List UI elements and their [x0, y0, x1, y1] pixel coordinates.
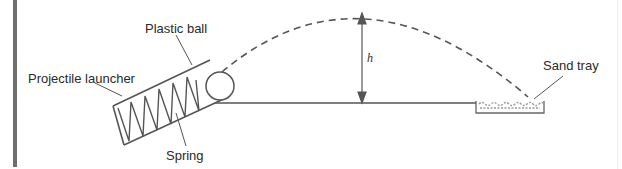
- height-label: h: [367, 51, 373, 65]
- spring-label: Spring: [166, 148, 204, 163]
- sand-tray: [476, 101, 544, 113]
- sand-tray-label: Sand tray: [543, 58, 599, 73]
- sand-tray-leader: [534, 76, 563, 99]
- plastic-ball-leader: [176, 35, 192, 65]
- plastic-ball-label: Plastic ball: [145, 21, 207, 36]
- arrow-head-down-icon: [358, 92, 366, 103]
- height-arrow: [358, 13, 366, 103]
- plastic-ball: [206, 72, 234, 100]
- launcher-bottom-wall: [124, 97, 228, 145]
- projectile-diagram: Plastic ball Projectile launcher Spring …: [0, 0, 622, 169]
- launcher-back-wall: [113, 106, 124, 145]
- trajectory-path: [222, 19, 528, 97]
- leader-lines: [95, 35, 563, 146]
- spring: [118, 77, 199, 141]
- projectile-launcher-label: Projectile launcher: [28, 71, 136, 86]
